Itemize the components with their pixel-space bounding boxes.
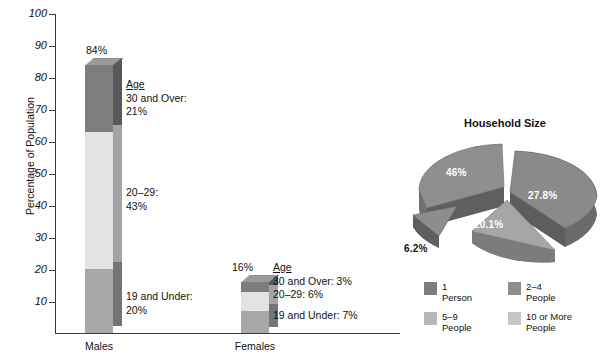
bar-side-males-19-under <box>113 262 122 326</box>
y-tick-label: 60 <box>3 135 47 147</box>
legend-label-2-4-people: 2–4 People <box>526 281 556 303</box>
callout-males-30-over-value: 21% <box>126 105 187 119</box>
pie-slice-label-62: 6.2% <box>404 243 428 254</box>
bar-segment-females-30-over[interactable] <box>241 282 269 292</box>
y-tick-label: 80 <box>3 71 47 83</box>
y-axis-title: Percentage of Population <box>24 56 36 256</box>
legend-item-5-9-people[interactable]: 5–9 People <box>424 311 472 333</box>
y-tick-label: 90 <box>3 39 47 51</box>
y-tick-label: 100 <box>3 7 47 19</box>
legend-item-10-or-more-people[interactable]: 10 or More People <box>508 311 572 333</box>
legend-swatch-icon-2-4-people <box>508 282 521 295</box>
callout-males-19-under-label: 19 and Under: <box>126 290 193 304</box>
callout-males-20-29-value: 43% <box>126 200 158 214</box>
callout-females-19-under: 19 and Under: 7% <box>273 309 358 323</box>
legend-label-5-9-people: 5–9 People <box>442 311 472 333</box>
bar-segment-males-30-over[interactable] <box>85 65 113 132</box>
y-tick-label: 50 <box>3 167 47 179</box>
bar-females[interactable] <box>241 275 269 334</box>
pie-chart: Household Size <box>400 0 610 360</box>
pie-graphic <box>405 130 605 275</box>
callout-header-females: Age <box>273 261 292 275</box>
pie-slice-label-278: 27.8% <box>528 190 557 201</box>
y-tick-label: 10 <box>3 295 47 307</box>
legend-swatch-icon-5-9-people <box>424 312 437 325</box>
category-label-males: Males <box>65 340 133 352</box>
callout-males-19-under: 19 and Under: 20% <box>126 290 193 317</box>
callout-females-20-29: 20–29: 6% <box>273 288 358 302</box>
y-tick-label: 70 <box>3 103 47 115</box>
legend-item-1-person[interactable]: 1 Person <box>424 281 472 303</box>
callout-females: Age 30 and Over: 3% 20–29: 6% 19 and Und… <box>273 261 358 322</box>
callout-header-males: Age <box>126 78 145 92</box>
figure-root: Percentage of Population 100 90 80 70 60… <box>0 0 610 360</box>
callout-males-20-29-label: 20–29: <box>126 186 158 200</box>
bar-males[interactable] <box>85 58 113 334</box>
bar-total-label-females: 16% <box>232 261 253 273</box>
callout-males-30-over-label: 30 and Over: <box>126 92 187 106</box>
stacked-bar-chart: Percentage of Population 100 90 80 70 60… <box>0 0 400 360</box>
bar-total-label-males: 84% <box>86 44 107 56</box>
pie-chart-title: Household Size <box>400 117 610 129</box>
bar-segment-females-20-29[interactable] <box>241 292 269 311</box>
bar-side-males-30-over <box>113 58 122 132</box>
y-axis-line <box>55 14 56 334</box>
y-tick-label: 40 <box>3 199 47 211</box>
callout-males-19-under-value: 20% <box>126 304 193 318</box>
y-tick-label: 20 <box>3 263 47 275</box>
y-tick-label: 30 <box>3 231 47 243</box>
legend-item-2-4-people[interactable]: 2–4 People <box>508 281 556 303</box>
legend-swatch-icon-1-person <box>424 282 437 295</box>
callout-females-30-over: 30 and Over: 3% <box>273 275 358 289</box>
bar-side-males-20-29 <box>113 125 122 262</box>
bar-segment-females-19-under[interactable] <box>241 311 269 333</box>
category-label-females: Females <box>221 340 289 352</box>
pie-slice-label-201: 20.1% <box>474 219 503 230</box>
legend-swatch-icon-10-or-more-people <box>508 312 521 325</box>
bar-segment-males-20-29[interactable] <box>85 132 113 269</box>
legend-label-10-or-more-people: 10 or More People <box>526 311 572 333</box>
callout-males-30-over: Age 30 and Over: 21% <box>126 78 187 119</box>
legend-label-1-person: 1 Person <box>442 281 472 303</box>
bar-segment-males-19-under[interactable] <box>85 269 113 333</box>
pie-slice-label-46: 46% <box>446 167 467 178</box>
callout-males-20-29: 20–29: 43% <box>126 186 158 213</box>
